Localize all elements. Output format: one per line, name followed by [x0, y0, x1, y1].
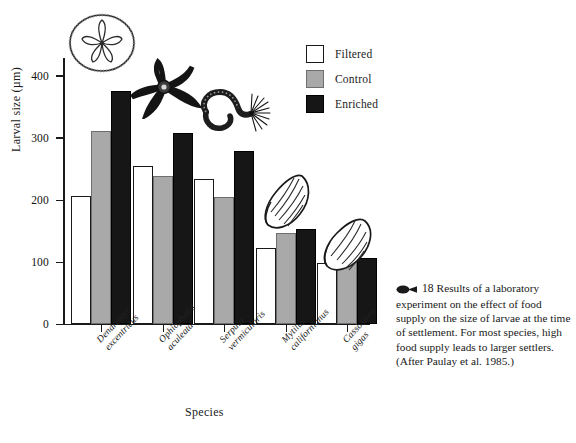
- y-tick-label: 0: [43, 318, 49, 330]
- y-tick-label: 400: [31, 70, 49, 82]
- mussel-illustration: [258, 172, 316, 238]
- legend-swatch-enriched: [306, 95, 324, 113]
- bar-control[interactable]: [214, 197, 234, 323]
- bar-control[interactable]: [276, 233, 296, 324]
- bar-enriched[interactable]: [111, 91, 131, 324]
- y-tick-100: 100: [56, 262, 63, 263]
- y-tick-300: 300: [56, 137, 63, 138]
- x-axis-title: Species: [185, 405, 224, 420]
- oyster-illustration: [317, 215, 379, 279]
- y-axis-line: [63, 58, 65, 325]
- legend-label-enriched: Enriched: [335, 98, 378, 110]
- legend-label-control: Control: [335, 73, 372, 85]
- legend-swatch-control: [306, 70, 324, 88]
- legend-item-control[interactable]: Control: [306, 66, 378, 91]
- bar-enriched[interactable]: [234, 151, 254, 324]
- y-tick-400: 400: [56, 75, 63, 76]
- legend-swatch-filtered: [306, 45, 324, 63]
- legend-item-enriched[interactable]: Enriched: [306, 91, 378, 116]
- figure-caption: 18Results of a laboratory experiment on …: [396, 281, 572, 368]
- figure-number: 18: [422, 282, 434, 295]
- bar-control[interactable]: [91, 131, 111, 323]
- bar-control[interactable]: [153, 176, 173, 323]
- brittle-star-illustration: [128, 57, 204, 123]
- legend-label-filtered: Filtered: [335, 48, 372, 60]
- bar-filtered[interactable]: [194, 179, 214, 324]
- bar-group: [71, 57, 131, 324]
- bar-enriched[interactable]: [173, 133, 193, 324]
- y-tick-200: 200: [56, 200, 63, 201]
- bar-filtered[interactable]: [71, 196, 91, 323]
- legend: FilteredControlEnriched: [306, 41, 378, 116]
- y-tick-label: 200: [31, 194, 49, 206]
- y-tick-0: 0: [56, 324, 63, 325]
- figure-root: Larval size (µm) 0100200300400: [0, 0, 576, 443]
- y-tick-label: 100: [31, 256, 49, 268]
- legend-item-filtered[interactable]: Filtered: [306, 41, 378, 66]
- larva-marker-icon: [396, 284, 418, 295]
- tube-worm-illustration: [196, 86, 272, 142]
- y-tick-label: 300: [31, 132, 49, 144]
- y-axis-title: Larval size (µm): [9, 67, 24, 152]
- bar-filtered[interactable]: [133, 166, 153, 323]
